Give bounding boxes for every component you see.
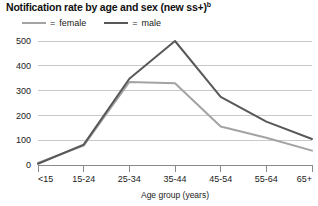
x-axis-tick-label: 65+ xyxy=(297,174,312,184)
x-axis-tick-label: <15 xyxy=(38,174,53,184)
y-axis-tick-label: 0 xyxy=(26,160,31,170)
x-axis-tick-label: 35-44 xyxy=(163,174,186,184)
y-axis-tick-label: 500 xyxy=(16,36,31,46)
series-line-male xyxy=(38,41,312,164)
y-axis-tick-label: 100 xyxy=(16,135,31,145)
x-axis-tick-label: 55-64 xyxy=(255,174,278,184)
x-axis-tick-label: 15-24 xyxy=(72,174,95,184)
x-axis-title: Age group (years) xyxy=(141,190,209,200)
x-axis-tick-label: 25-34 xyxy=(118,174,141,184)
data-series xyxy=(38,41,312,164)
y-axis-tick-label: 300 xyxy=(16,86,31,96)
plot-area: 0100200300400500 <1515-2425-3435-4445-54… xyxy=(0,0,318,206)
x-axis-tick-label: 45-54 xyxy=(209,174,232,184)
y-axis-tick-labels: 0100200300400500 xyxy=(16,36,31,170)
y-axis-tick-label: 400 xyxy=(16,61,31,71)
x-axis-ticks xyxy=(38,165,312,172)
y-axis-tick-label: 200 xyxy=(16,111,31,121)
x-axis-tick-labels: <1515-2425-3435-4445-5455-6465+ xyxy=(38,174,312,184)
chart-container: Notification rate by age and sex (new ss… xyxy=(0,0,318,206)
